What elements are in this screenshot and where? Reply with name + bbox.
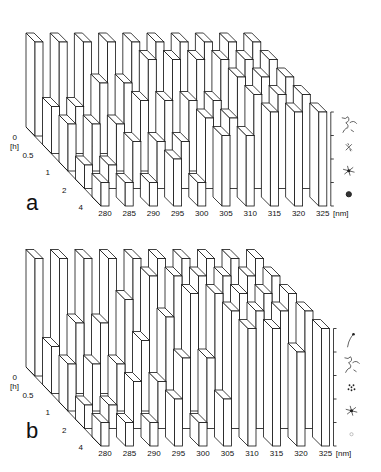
wavelength-tick-label: 285	[123, 449, 137, 458]
bar	[166, 390, 183, 446]
time-tick-label: 0	[13, 373, 18, 382]
partially-condensed-icon	[346, 143, 352, 151]
time-tick-label: 1	[46, 168, 51, 177]
time-tick-label: 2	[62, 186, 67, 195]
panel-label-b: b	[26, 418, 38, 444]
extended-coil-icon	[342, 117, 357, 133]
bar	[43, 338, 60, 394]
bar3d-chart-b: 00.5124[h]280285290295300305310315320325…	[0, 236, 381, 472]
wavelength-tick-label: 310	[245, 449, 259, 458]
wavelength-axis-unit: [nm]	[333, 209, 349, 218]
bar	[165, 150, 182, 206]
extended-coil-icon	[345, 357, 360, 373]
bar	[261, 103, 278, 206]
bar	[59, 355, 76, 411]
chart-panel-b: 00.5124[h]280285290295300305310315320325…	[0, 236, 381, 472]
clustered-dots-icon	[348, 384, 356, 391]
chart-panel-a: 00.5124[h]280285290295300305310315320325…	[0, 0, 381, 236]
wavelength-tick-label: 290	[147, 449, 161, 458]
wavelength-tick-label: 285	[123, 209, 137, 218]
wavelength-tick-label: 315	[270, 449, 284, 458]
bars	[26, 33, 327, 206]
time-tick-label: 0.5	[22, 391, 34, 400]
time-tick-label: 4	[79, 443, 84, 452]
wavelength-tick-label: 290	[147, 209, 161, 218]
wavelength-tick-label: 305	[219, 209, 233, 218]
wavelength-tick-label: 280	[98, 209, 112, 218]
faint-dot-icon	[350, 433, 353, 436]
wavelength-tick-label: 325	[319, 449, 333, 458]
bar	[264, 320, 281, 447]
wavelength-tick-label: 315	[268, 209, 282, 218]
bar	[26, 33, 43, 136]
time-axis-unit: [h]	[10, 382, 19, 391]
time-tick-label: 2	[62, 426, 67, 435]
time-tick-label: 1	[46, 408, 51, 417]
time-tick-label: 0	[13, 133, 18, 142]
bar	[237, 127, 254, 207]
wavelength-tick-label: 295	[172, 449, 186, 458]
wavelength-tick-label: 295	[171, 209, 185, 218]
wavelength-tick-label: 280	[98, 449, 112, 458]
bar	[310, 103, 327, 206]
bar	[239, 320, 256, 447]
compact-globule-icon	[346, 192, 351, 197]
bar	[59, 115, 76, 171]
single-strand-icon	[348, 333, 355, 347]
wavelength-tick-label: 325	[316, 209, 330, 218]
bar	[215, 390, 232, 446]
bar	[313, 320, 330, 447]
wavelength-axis-unit: [nm]	[336, 449, 352, 458]
condensed-star-icon	[346, 406, 357, 416]
bars	[26, 250, 330, 447]
time-axis-unit: [h]	[10, 142, 19, 151]
wavelength-tick-label: 320	[294, 449, 308, 458]
wavelength-tick-label: 320	[292, 209, 306, 218]
wavelength-tick-label: 300	[196, 449, 210, 458]
bar	[286, 103, 303, 206]
time-tick-label: 0.5	[22, 151, 34, 160]
wavelength-tick-label: 300	[195, 209, 209, 218]
time-tick-label: 4	[79, 203, 84, 212]
panel-label-a: a	[26, 190, 38, 216]
bar3d-chart-a: 00.5124[h]280285290295300305310315320325…	[0, 0, 381, 236]
bar	[26, 250, 43, 377]
bar	[288, 343, 305, 446]
wavelength-tick-label: 310	[244, 209, 258, 218]
bar	[43, 98, 60, 154]
bar	[213, 127, 230, 207]
wavelength-tick-label: 305	[221, 449, 235, 458]
condensed-star-icon	[343, 166, 354, 176]
